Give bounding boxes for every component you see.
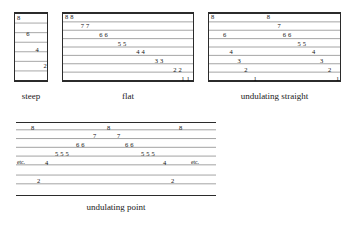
elevation-label: 7 [93,133,96,140]
elevation-label: 8 [31,125,34,132]
elevation-label: 2 [44,63,47,70]
elevation-label: 4 4 [136,49,145,56]
elevation-label: 1 [336,76,339,83]
elevation-label: 5 5 [118,41,127,48]
panel-flat: 8 87 76 65 54 43 32 21 1 [62,12,194,82]
elevation-label: 6 [26,31,29,38]
caption-steep: steep [14,92,48,101]
elevation-label: 4 [312,49,315,56]
elevation-label: 3 [238,58,241,65]
elevation-label: 2 [244,67,247,74]
elevation-label: 2 [328,67,331,74]
caption-undulating-point: undulating point [16,203,216,212]
elevation-label: 6 6 [99,32,108,39]
elevation-label: 8 [211,14,214,21]
panel-undulating-point: 888776 66 65 5 55 5 54422etc.etc. [16,122,216,196]
elevation-label: 6 6 [283,32,292,39]
elevation-label: 8 [267,14,270,21]
elevation-label: 2 [37,178,40,185]
elevation-label: 5 5 5 [141,151,155,158]
elevation-label: 7 [117,133,120,140]
etc-marker: etc. [191,160,199,166]
elevation-label: 8 [17,15,20,22]
elevation-label: 7 7 [81,23,90,30]
elevation-label: 4 [35,47,38,54]
contour-diagram-figure: 86428 87 76 65 54 43 32 21 188766 65 544… [0,0,355,226]
elevation-label: 2 [171,178,174,185]
contour-line-group [209,13,340,81]
elevation-label: 6 [223,32,226,39]
caption-flat: flat [62,92,194,101]
etc-marker: etc. [17,160,25,166]
elevation-label: 2 2 [173,67,182,74]
elevation-label: 6 6 [76,142,85,149]
panel-steep: 8642 [14,12,48,82]
contour-line-group [15,13,47,81]
panel-undulating-straight: 88766 65 544332211 [208,12,341,82]
elevation-label: 6 6 [125,142,134,149]
elevation-label: 4 [230,49,233,56]
elevation-label: 3 3 [155,58,164,65]
caption-undulating-straight: undulating straight [208,92,341,101]
elevation-label: 4 [163,160,166,167]
elevation-label: 5 5 5 [55,151,69,158]
elevation-label: 8 8 [65,14,74,21]
elevation-label: 4 [45,160,48,167]
elevation-label: 8 [107,125,110,132]
elevation-label: 1 1 [181,76,190,83]
elevation-label: 7 [278,23,281,30]
elevation-label: 5 5 [297,41,306,48]
elevation-label: 8 [179,125,182,132]
elevation-label: 3 [320,58,323,65]
elevation-label: 1 [254,76,257,83]
